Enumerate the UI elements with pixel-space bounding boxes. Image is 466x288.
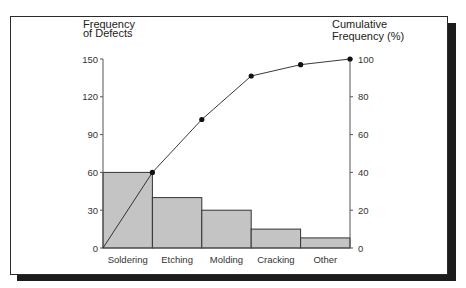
cumulative-point [298,62,303,67]
left-axis-title-line2: of Defects [83,27,133,39]
left-tick-label: 150 [82,54,98,65]
right-tick-label: 100 [358,54,374,65]
bar-molding [202,210,251,248]
cumulative-point [249,73,254,78]
cumulative-point [150,170,155,175]
x-label-soldering: Soldering [108,254,148,265]
bar-etching [152,198,201,248]
left-tick-label: 30 [87,205,98,216]
bar-cracking [251,229,300,248]
bar-other [301,238,350,248]
x-label-cracking: Cracking [257,254,295,265]
x-label-molding: Molding [210,254,243,265]
right-tick-label: 20 [358,205,369,216]
right-tick-label: 0 [358,243,363,254]
left-tick-label: 90 [87,129,98,140]
right-tick-label: 60 [358,129,369,140]
pareto-chart: 0306090120150020406080100 Frequency of D… [0,0,466,288]
bars-group [103,172,350,248]
cumulative-point [347,56,352,61]
x-label-etching: Etching [161,254,193,265]
cumulative-point [199,117,204,122]
x-label-other: Other [313,254,337,265]
left-tick-label: 120 [82,91,98,102]
x-axis-labels: SolderingEtchingMoldingCrackingOther [108,254,338,265]
right-tick-label: 80 [358,91,369,102]
left-tick-label: 0 [93,243,98,254]
right-tick-label: 40 [358,167,369,178]
right-axis-title-line2: Frequency (%) [332,30,404,42]
left-tick-label: 60 [87,167,98,178]
right-axis-title-line1: Cumulative [332,18,387,30]
